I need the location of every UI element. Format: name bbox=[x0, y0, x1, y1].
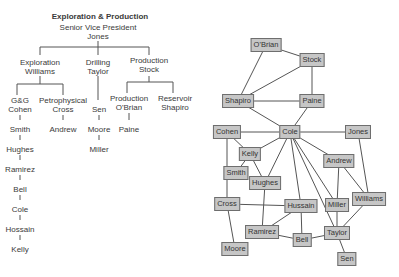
gg-member: Bell bbox=[13, 185, 26, 194]
gg-member: Hughes bbox=[6, 145, 34, 154]
node-williams: Williams bbox=[352, 192, 386, 206]
gg-member: Hossain bbox=[6, 225, 35, 234]
gg-member: Cole bbox=[12, 205, 28, 214]
drilling-member: Sen bbox=[92, 105, 106, 114]
node-cohen: Cohen bbox=[213, 125, 241, 139]
gg-member: Kelly bbox=[11, 245, 28, 254]
org-chart-title: Exploration & Production bbox=[52, 12, 148, 21]
edge-jones-williams bbox=[358, 132, 369, 199]
node-moore: Moore bbox=[221, 242, 248, 256]
node-jones: Jones bbox=[345, 125, 371, 139]
division-role-exploration: Exploration bbox=[20, 58, 60, 67]
edge-cole-miller bbox=[290, 132, 337, 205]
subunit-name-production: O'Brian bbox=[116, 103, 142, 112]
edge-obrian-shapiro bbox=[238, 45, 266, 101]
subunit-role-reservoir: Reservoir bbox=[158, 94, 192, 103]
node-paine: Paine bbox=[299, 94, 324, 108]
subunit-role-gg: G&G bbox=[11, 96, 29, 105]
node-stock: Stock bbox=[300, 53, 325, 67]
org-chart: Exploration & Production Senior Vice Pre… bbox=[0, 0, 200, 277]
node-kelly: Kelly bbox=[239, 147, 261, 161]
division-name-exploration: Williams bbox=[25, 67, 55, 76]
subunit-name-gg: Cohen bbox=[8, 105, 32, 114]
subunit-role-production: Production bbox=[110, 94, 148, 103]
division-role-drilling: Drilling bbox=[86, 58, 110, 67]
node-bell: Bell bbox=[293, 233, 312, 247]
node-hughes: Hughes bbox=[249, 176, 281, 190]
node-hussain: Hussain bbox=[284, 199, 317, 213]
root-name: Jones bbox=[87, 32, 108, 41]
division-name-drilling: Taylor bbox=[87, 67, 108, 76]
gg-member: Ramirez bbox=[5, 165, 35, 174]
gg-member: Smith bbox=[10, 125, 30, 134]
division-role-production: Production bbox=[130, 56, 168, 65]
subunit-name-petrophysical: Cross bbox=[53, 105, 74, 114]
node-andrew: Andrew bbox=[323, 154, 354, 168]
node-shapiro: Shapiro bbox=[222, 94, 254, 108]
node-ramirez: Ramirez bbox=[245, 225, 279, 239]
subunit-name-reservoir: Shapiro bbox=[161, 103, 189, 112]
node-cole: Cole bbox=[279, 125, 300, 139]
node-sen: Sen bbox=[337, 252, 356, 266]
node-miller: Miller bbox=[325, 198, 349, 212]
node-smith: Smith bbox=[223, 166, 248, 180]
division-name-production: Stock bbox=[139, 65, 159, 74]
node-obrian: O'Brian bbox=[251, 38, 282, 52]
drilling-member: Miller bbox=[89, 145, 108, 154]
root-role: Senior Vice President bbox=[60, 23, 137, 32]
drilling-member: Moore bbox=[88, 125, 111, 134]
network-diagram: O'BrianStockShapiroPaineCohenColeJonesKe… bbox=[200, 0, 399, 277]
node-cross: Cross bbox=[214, 197, 240, 211]
petro-member: Andrew bbox=[49, 125, 76, 134]
org-chart-connectors bbox=[0, 0, 200, 277]
node-taylor: Taylor bbox=[324, 226, 350, 240]
subunit-role-petrophysical: Petrophysical bbox=[39, 96, 87, 105]
production-member: Paine bbox=[119, 125, 139, 134]
